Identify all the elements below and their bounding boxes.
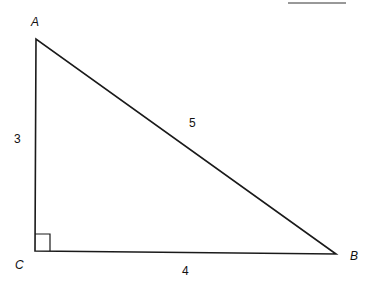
triangle-drawing (0, 0, 366, 288)
side-label-cb: 4 (182, 264, 189, 278)
vertex-label-a: A (31, 15, 39, 29)
vertex-label-c: C (15, 258, 24, 272)
side-label-ac: 3 (14, 132, 21, 146)
triangle-diagram: A B C 3 4 5 (0, 0, 366, 288)
triangle-abc (35, 39, 336, 254)
right-angle-marker (35, 234, 50, 251)
side-label-ab: 5 (189, 116, 196, 130)
vertex-label-b: B (350, 249, 358, 263)
